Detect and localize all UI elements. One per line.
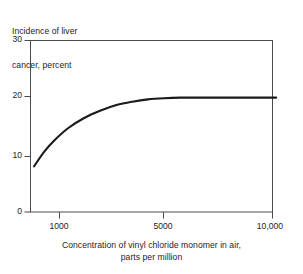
x-axis-title-line-2: parts per million bbox=[0, 252, 303, 264]
y-tick-label-20: 20 bbox=[0, 90, 22, 100]
plot-frame bbox=[31, 41, 273, 213]
chart-figure: Incidence of liver cancer, percent 30 20… bbox=[0, 0, 303, 274]
data-series-curve bbox=[34, 98, 276, 167]
x-tick-label-1000: 1000 bbox=[29, 221, 89, 231]
x-axis-title: Concentration of vinyl chloride monomer … bbox=[0, 240, 303, 263]
x-axis-title-line-1: Concentration of vinyl chloride monomer … bbox=[0, 240, 303, 252]
y-tick-label-10: 10 bbox=[0, 150, 22, 160]
y-axis-ticks bbox=[25, 41, 31, 213]
plot-canvas bbox=[0, 0, 303, 274]
x-tick-label-5000: 5000 bbox=[133, 221, 193, 231]
y-tick-label-0: 0 bbox=[0, 206, 22, 216]
y-tick-label-30: 30 bbox=[0, 34, 22, 44]
x-tick-label-10000: 10,000 bbox=[240, 221, 300, 231]
x-axis-ticks bbox=[60, 212, 273, 219]
